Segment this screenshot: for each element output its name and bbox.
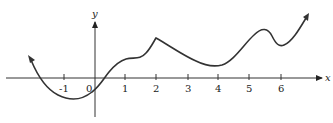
right-arrowhead-icon <box>303 13 309 21</box>
x-tick-label: 4 <box>215 83 221 94</box>
x-tick-label: 2 <box>153 83 159 94</box>
x-tick-label: 6 <box>278 83 284 94</box>
function-curve <box>31 18 306 99</box>
x-axis-label: x <box>325 72 331 83</box>
x-ticks <box>64 74 281 80</box>
y-axis-label: y <box>91 8 98 19</box>
x-tick-label: 5 <box>246 83 252 94</box>
x-tick-label: 3 <box>185 83 191 94</box>
x-tick-label: 1 <box>122 83 128 94</box>
function-graph: -1 0 1 2 3 4 5 6 x y <box>0 0 333 123</box>
x-tick-label: -1 <box>59 83 69 94</box>
left-arrowhead-icon <box>28 55 35 63</box>
